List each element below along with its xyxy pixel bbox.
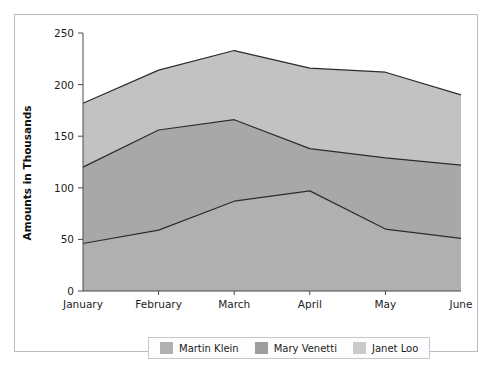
x-tick-label: April — [298, 298, 322, 310]
y-tick-label: 250 — [54, 27, 74, 39]
legend-label-janet-loo: Janet Loo — [372, 343, 418, 354]
x-tick-label: February — [135, 298, 182, 310]
legend-item[interactable]: Mary Venetti — [255, 342, 337, 354]
legend-label-mary-venetti: Mary Venetti — [274, 343, 337, 354]
x-tick-label: June — [449, 298, 473, 310]
y-tick-label: 0 — [67, 285, 74, 297]
y-tick-label: 150 — [54, 130, 74, 142]
legend-swatch-martin-klein — [160, 342, 173, 354]
legend-swatch-janet-loo — [353, 342, 366, 354]
y-axis-title: Amounts in Thousands — [21, 106, 33, 241]
x-tick-label: May — [375, 298, 397, 310]
legend-item[interactable]: Janet Loo — [353, 342, 418, 354]
y-tick-label: 100 — [54, 182, 74, 194]
y-tick-label: 200 — [54, 79, 74, 91]
chart-figure: 050100150200250JanuaryFebruaryMarchApril… — [14, 14, 478, 352]
x-tick-label: January — [62, 298, 103, 310]
plot-series-areas — [83, 51, 461, 291]
legend-item[interactable]: Martin Klein — [160, 342, 239, 354]
y-tick-label: 50 — [61, 233, 74, 245]
chart-legend: Martin Klein Mary Venetti Janet Loo — [148, 337, 430, 359]
legend-label-martin-klein: Martin Klein — [179, 343, 239, 354]
x-tick-label: March — [218, 298, 250, 310]
area-chart: 050100150200250JanuaryFebruaryMarchApril… — [15, 15, 477, 351]
legend-swatch-mary-venetti — [255, 342, 268, 354]
